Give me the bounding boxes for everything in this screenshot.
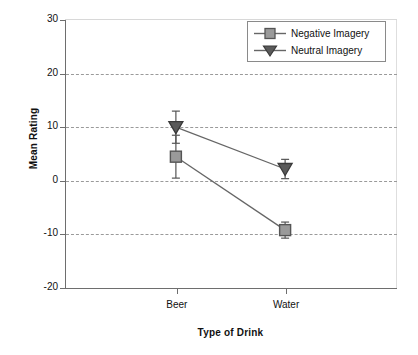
legend-label-neutral-imagery: Neutral Imagery bbox=[291, 45, 362, 56]
series-line-neutral-imagery bbox=[176, 127, 285, 169]
legend-item-negative-imagery[interactable]: Negative Imagery bbox=[253, 25, 380, 42]
y-tick-label--10: -10 bbox=[28, 227, 58, 238]
chart-figure: Mean Rating Type of Drink 3020100-10-20 … bbox=[0, 0, 418, 355]
legend-key-triangle-icon bbox=[253, 43, 287, 58]
y-tick-label-10: 10 bbox=[28, 120, 58, 131]
y-tick-label-20: 20 bbox=[28, 67, 58, 78]
y-tick-label-0: 0 bbox=[28, 174, 58, 185]
x-tick-label-water: Water bbox=[252, 299, 320, 310]
series-negative-imagery bbox=[170, 135, 290, 238]
x-tick-mark-water bbox=[286, 288, 287, 294]
x-axis-title: Type of Drink bbox=[65, 327, 396, 338]
data-point-neutral-imagery-beer[interactable] bbox=[169, 122, 183, 134]
series-line-negative-imagery bbox=[176, 157, 285, 230]
series-neutral-imagery bbox=[169, 111, 292, 179]
x-tick-mark-beer bbox=[177, 288, 178, 294]
y-tick-mark--20 bbox=[60, 288, 66, 289]
data-point-negative-imagery-water[interactable] bbox=[280, 225, 291, 236]
legend-item-neutral-imagery[interactable]: Neutral Imagery bbox=[253, 42, 380, 59]
x-tick-label-beer: Beer bbox=[143, 299, 211, 310]
legend-key-square-icon bbox=[253, 26, 287, 41]
y-tick-label--20: -20 bbox=[28, 281, 58, 292]
data-point-neutral-imagery-water[interactable] bbox=[278, 164, 292, 176]
legend-label-negative-imagery: Negative Imagery bbox=[291, 28, 369, 39]
chart-legend: Negative Imagery Neutral Imagery bbox=[247, 21, 386, 62]
data-point-negative-imagery-beer[interactable] bbox=[170, 151, 181, 162]
y-tick-label-30: 30 bbox=[28, 13, 58, 24]
